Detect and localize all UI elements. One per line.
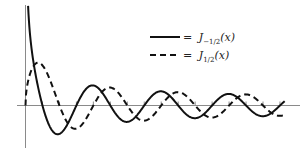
series-j-minus-half-curve [28,6,285,134]
bessel-function-chart: = J−1/2(x) = J1/2(x) [0,0,303,155]
legend-item-j-half: = J1/2(x) [183,49,229,64]
legend: = J−1/2(x) = J1/2(x) [150,31,235,64]
series-j-half-curve [26,63,285,129]
legend-item-j-minus-half: = J−1/2(x) [183,31,235,46]
